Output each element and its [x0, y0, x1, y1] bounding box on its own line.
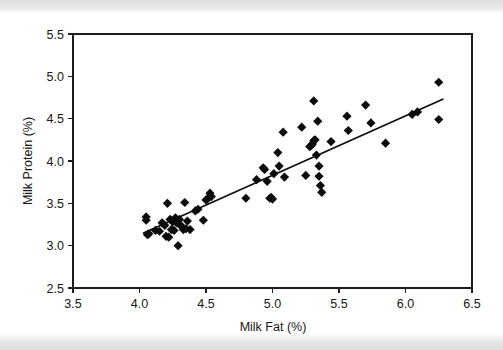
- data-point: [241, 194, 250, 203]
- y-tick-label: 5.0: [47, 70, 64, 84]
- y-tick-label: 3.5: [47, 197, 64, 211]
- x-axis-title: Milk Fat (%): [240, 320, 307, 334]
- data-point: [381, 139, 390, 148]
- data-point: [279, 128, 288, 137]
- axis-ticks: [68, 34, 472, 293]
- data-point: [314, 172, 323, 181]
- plot-axes: [73, 34, 472, 288]
- y-tick-label: 4.5: [47, 112, 64, 126]
- data-point: [273, 148, 282, 157]
- data-point: [275, 161, 284, 170]
- regression-line: [143, 99, 442, 233]
- data-point: [297, 123, 306, 132]
- data-point: [434, 78, 443, 87]
- data-point: [180, 198, 189, 207]
- data-point: [344, 126, 353, 135]
- x-tick-label: 4.0: [131, 297, 148, 311]
- data-point: [309, 96, 318, 105]
- data-point: [317, 188, 326, 197]
- data-point: [173, 241, 182, 250]
- y-tick-label: 5.5: [47, 28, 64, 42]
- x-tick-label: 6.5: [463, 297, 480, 311]
- data-point: [280, 172, 289, 181]
- data-point: [361, 101, 370, 110]
- data-point: [199, 216, 208, 225]
- scatter-plot: 3.54.04.55.05.56.06.52.53.03.54.04.55.05…: [0, 0, 503, 350]
- data-point: [342, 112, 351, 121]
- data-point: [316, 181, 325, 190]
- y-tick-label: 4.0: [47, 155, 64, 169]
- data-point: [434, 115, 443, 124]
- trend-line: [143, 99, 442, 233]
- data-point: [326, 137, 335, 146]
- data-point: [313, 117, 322, 126]
- plot-frame: [73, 34, 472, 288]
- x-tick-label: 5.5: [330, 297, 347, 311]
- data-point: [314, 161, 323, 170]
- data-points: [142, 78, 444, 251]
- x-tick-label: 3.5: [64, 297, 81, 311]
- x-tick-label: 4.5: [197, 297, 214, 311]
- y-axis-title: Milk Protein (%): [21, 117, 35, 205]
- data-point: [163, 199, 172, 208]
- y-tick-label: 2.5: [47, 282, 64, 296]
- figure-canvas: 3.54.04.55.05.56.06.52.53.03.54.04.55.05…: [0, 0, 503, 350]
- y-tick-label: 3.0: [47, 239, 64, 253]
- x-tick-label: 6.0: [397, 297, 414, 311]
- data-point: [366, 118, 375, 127]
- data-point: [301, 171, 310, 180]
- x-tick-label: 5.0: [264, 297, 281, 311]
